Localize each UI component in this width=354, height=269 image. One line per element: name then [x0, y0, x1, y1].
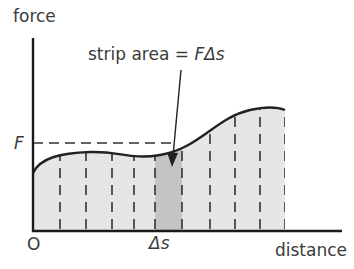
annotation-arrow-shaft [173, 70, 181, 156]
annotation-formula: FΔs [194, 44, 224, 64]
origin-label: O [27, 234, 40, 254]
force-distance-diagram: force distance O F Δs strip area = FΔs [0, 0, 354, 269]
strip-width-label: Δs [147, 233, 170, 253]
highlighted-strip [155, 100, 182, 231]
x-axis-label: distance [275, 240, 347, 260]
force-level-label: F [14, 133, 24, 153]
strip-area-annotation: strip area = FΔs [88, 44, 225, 64]
y-axis-label: force [13, 6, 56, 26]
annotation-prefix: strip area = [88, 44, 194, 64]
